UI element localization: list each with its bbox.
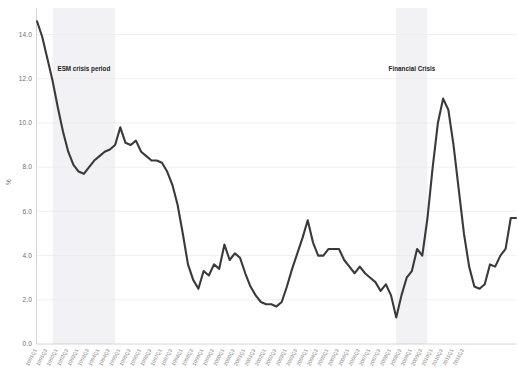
y-tick-label: 12.0 <box>19 75 32 82</box>
y-tick-label: 0.0 <box>23 340 33 347</box>
y-tick-label: 4.0 <box>23 252 33 259</box>
y-tick-label: 6.0 <box>23 208 33 215</box>
y-tick-label: 10.0 <box>19 119 32 126</box>
x-axis-tick-labels: 1991Q11991Q31992Q11992Q31993Q11993Q31994… <box>24 348 465 367</box>
esm-crisis-band-label: ESM crisis period <box>57 65 110 73</box>
crisis-bands <box>53 8 428 344</box>
y-tick-label: 8.0 <box>23 163 33 170</box>
y-axis-tick-labels: 0.02.04.06.08.010.012.014.0 <box>19 31 32 347</box>
esm-crisis-band <box>53 8 115 344</box>
y-tick-label: 14.0 <box>19 31 32 38</box>
chart-container: 0.02.04.06.08.010.012.014.0 1991Q11991Q3… <box>0 0 518 385</box>
y-tick-label: 2.0 <box>23 296 33 303</box>
line-chart: 0.02.04.06.08.010.012.014.0 1991Q11991Q3… <box>0 0 518 385</box>
y-axis-title: % <box>5 179 12 185</box>
financial-crisis-band-label: Financial Crisis <box>389 65 436 72</box>
